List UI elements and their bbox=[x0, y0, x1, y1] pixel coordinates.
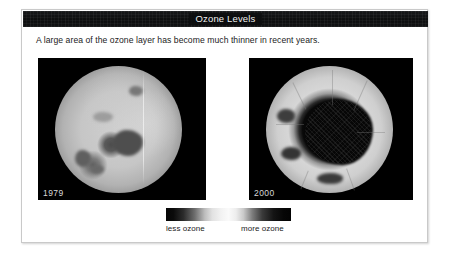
figure-panel-1979[interactable]: 1979 bbox=[38, 58, 206, 200]
graticule-line bbox=[357, 132, 385, 133]
ozone-levels-card: Ozone Levels A large area of the ozone l… bbox=[21, 9, 428, 243]
ozone-region bbox=[129, 86, 143, 96]
graticule-line bbox=[332, 70, 333, 106]
graticule-line bbox=[300, 171, 309, 190]
ozone-map-image-2000 bbox=[266, 66, 393, 193]
color-scale-bar bbox=[166, 208, 291, 221]
color-scale-legend: less ozone more ozone bbox=[166, 208, 291, 236]
ozone-region bbox=[75, 150, 91, 167]
ozone-region bbox=[91, 165, 104, 174]
legend-label-more-ozone: more ozone bbox=[241, 224, 284, 234]
color-scale-labels: less ozone more ozone bbox=[166, 224, 291, 236]
year-label-1979: 1979 bbox=[43, 189, 64, 198]
graticule-line bbox=[276, 124, 304, 125]
graticule-line bbox=[346, 168, 355, 190]
year-label-2000: 2000 bbox=[254, 189, 275, 198]
window-titlebar: Ozone Levels bbox=[23, 11, 428, 27]
ozone-region bbox=[93, 112, 113, 122]
figure-panel-2000[interactable]: 2000 bbox=[249, 58, 413, 200]
window-title: Ozone Levels bbox=[189, 13, 263, 26]
ozone-region bbox=[317, 173, 343, 184]
ozone-map-image-1979 bbox=[55, 66, 182, 193]
caption-text: A large area of the ozone layer has beco… bbox=[36, 35, 416, 46]
ozone-region bbox=[113, 130, 143, 156]
ozone-region bbox=[277, 109, 295, 123]
graticule-line bbox=[292, 83, 306, 111]
ozone-region bbox=[281, 147, 301, 160]
legend-label-less-ozone: less ozone bbox=[166, 224, 205, 234]
